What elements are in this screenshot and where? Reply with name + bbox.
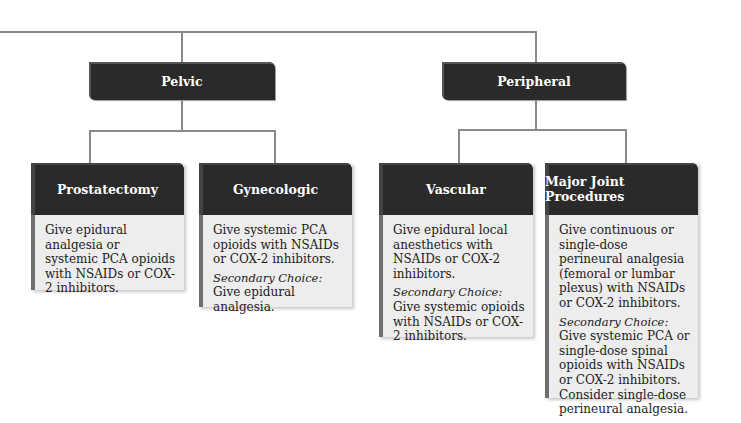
secondary-label: Secondary Choice: [213,271,344,286]
secondary-text: Give systemic PCA or single-dose spinal … [559,329,690,417]
prostatectomy-stem [89,130,91,163]
peripheral-down [535,100,537,130]
card-text: Give systemic PCA opioids with NSAIDs or… [213,223,344,267]
vascular-stem [458,129,460,163]
category-pelvic: Pelvic [89,62,275,100]
pelvic-stem [181,31,183,62]
gynecologic-stem [274,130,276,163]
card-title: Prostatectomy [31,163,184,215]
pelvic-branch [89,130,276,132]
card-text: Give epidural analgesia or systemic PCA … [45,223,176,296]
category-peripheral: Peripheral [442,62,626,100]
card-title: Gynecologic [199,163,352,215]
card-prostatectomy: Prostatectomy Give epidural analgesia or… [31,163,184,290]
secondary-label: Secondary Choice: [393,285,525,300]
card-title: Major Joint Procedures [545,163,698,215]
top-connector [0,31,537,33]
card-text: Give epidural local anesthetics with NSA… [393,223,525,281]
card-gynecologic: Gynecologic Give systemic PCA opioids wi… [199,163,352,307]
card-vascular: Vascular Give epidural local anesthetics… [379,163,533,337]
peripheral-branch [458,129,627,131]
secondary-text: Give epidural analgesia. [213,285,344,314]
pelvic-down [181,100,183,131]
joint-stem [625,129,627,163]
card-major-joint: Major Joint Procedures Give continuous o… [545,163,698,398]
card-title: Vascular [379,163,533,215]
card-text: Give continuous or single-dose perineura… [559,223,690,311]
peripheral-stem [535,31,537,62]
secondary-label: Secondary Choice: [559,315,690,330]
secondary-text: Give systemic opioids with NSAIDs or COX… [393,300,525,344]
